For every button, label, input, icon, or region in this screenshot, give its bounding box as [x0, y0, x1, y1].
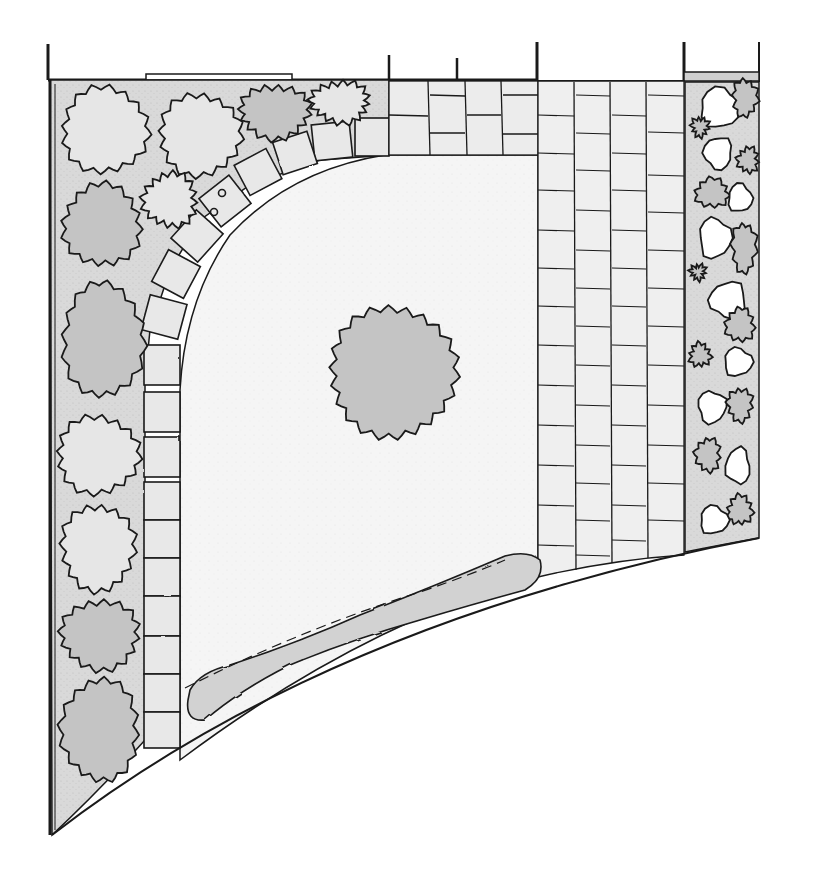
terrace-top-paving: [389, 81, 538, 155]
paved-terrace: [538, 81, 684, 577]
boundary-top: [48, 42, 759, 82]
garden-plan-drawing: [0, 0, 818, 871]
garden-plan: [0, 0, 818, 871]
